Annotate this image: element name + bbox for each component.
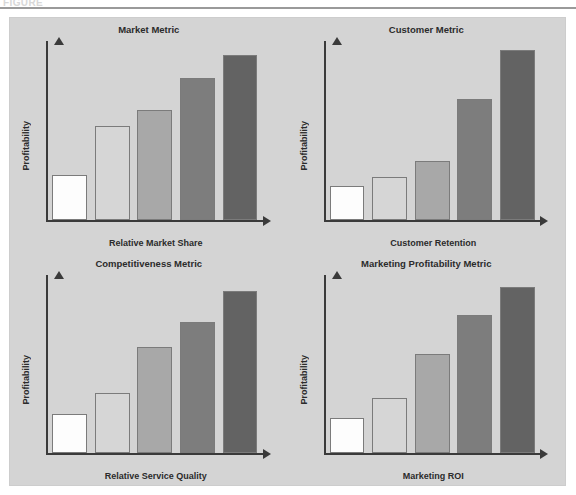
chart-title: Market Metric [118, 24, 179, 35]
bar [500, 50, 535, 219]
plot-row: Profitability [296, 271, 558, 474]
bar [372, 177, 407, 219]
chart-customer-metric: Customer Metric Profitability Customer R… [288, 18, 566, 252]
x-axis-line [46, 453, 264, 455]
chart-title: Customer Metric [389, 24, 464, 35]
bar [223, 291, 258, 453]
bar [137, 347, 172, 453]
y-axis-label: Profitability [18, 37, 34, 240]
bar [223, 55, 258, 219]
plot-area [312, 271, 558, 474]
bar [330, 186, 365, 220]
chart-title: Competitiveness Metric [95, 258, 202, 269]
y-axis-label: Profitability [18, 271, 34, 474]
bar [180, 78, 215, 219]
plot-row: Profitability [296, 37, 558, 240]
bar-series [330, 277, 536, 454]
chart-competitiveness-metric: Competitiveness Metric Profitability Rel… [10, 252, 288, 486]
bar [457, 99, 492, 219]
x-axis-line [324, 220, 542, 222]
x-axis-line [46, 220, 264, 222]
figure-caption-fragment: FIGURE [3, 0, 43, 8]
bar [457, 315, 492, 453]
y-axis-label: Profitability [296, 37, 312, 240]
plot-row: Profitability [18, 37, 280, 240]
x-axis-arrow-icon [263, 449, 271, 459]
plot-area [312, 37, 558, 240]
bar [500, 287, 535, 453]
y-axis-line [324, 275, 326, 456]
bar [415, 354, 450, 453]
plot-area [34, 37, 280, 240]
x-axis-line [324, 453, 542, 455]
bar [180, 322, 215, 453]
y-axis-label: Profitability [296, 271, 312, 474]
bar-series [52, 43, 258, 220]
bar [52, 414, 87, 453]
y-axis-line [46, 275, 48, 456]
y-axis-line [324, 41, 326, 222]
top-divider-rule [0, 7, 576, 9]
y-axis-line [46, 41, 48, 222]
chart-market-metric: Market Metric Profitability Relative Mar… [10, 18, 288, 252]
figure-panel: Market Metric Profitability Relative Mar… [10, 18, 565, 485]
bar [415, 161, 450, 219]
bar [95, 126, 130, 220]
x-axis-arrow-icon [540, 216, 548, 226]
bar [137, 110, 172, 219]
x-axis-arrow-icon [263, 216, 271, 226]
chart-grid: Market Metric Profitability Relative Mar… [10, 18, 565, 485]
plot-row: Profitability [18, 271, 280, 474]
chart-marketing-profitability-metric: Marketing Profitability Metric Profitabi… [288, 252, 566, 486]
x-axis-arrow-icon [540, 449, 548, 459]
bar [95, 393, 130, 453]
bar-series [52, 277, 258, 454]
bar [372, 398, 407, 453]
bar [330, 418, 365, 453]
plot-area [34, 271, 280, 474]
bar [52, 175, 87, 219]
bar-series [330, 43, 536, 220]
chart-title: Marketing Profitability Metric [361, 258, 491, 269]
